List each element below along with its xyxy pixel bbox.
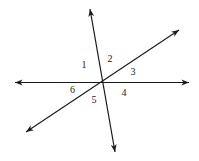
angle-label-1: 1 [82, 59, 87, 70]
intersecting-lines-diagram: 123456 [0, 0, 199, 161]
angle-label-5: 5 [92, 94, 97, 105]
angle-label-2: 2 [108, 53, 113, 64]
angle-label-3: 3 [131, 66, 136, 77]
angle-label-4: 4 [122, 87, 127, 98]
diagonal-line [26, 30, 179, 132]
angle-label-6: 6 [70, 84, 75, 95]
lines-group [15, 9, 189, 152]
